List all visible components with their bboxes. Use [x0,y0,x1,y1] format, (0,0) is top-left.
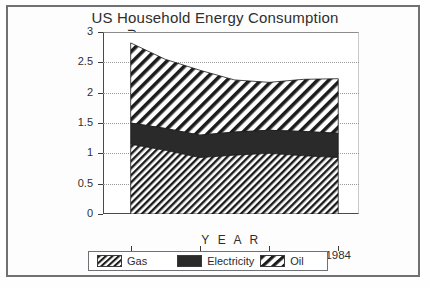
legend-item-electricity: Electricity [177,255,254,267]
chart-legend: Gas Electricity Oil [88,251,328,271]
y-tick-mark [98,184,103,185]
y-tick-mark [98,93,103,94]
legend-item-gas: Gas [97,255,147,267]
legend-label-oil: Oil [290,255,303,267]
stacked-area-series [103,32,359,214]
y-tick-label: 3 [49,26,93,37]
legend-label-gas: Gas [127,255,147,267]
y-tick-mark [98,153,103,154]
y-tick-mark [98,214,103,215]
y-tick-label: 2 [49,87,93,98]
y-tick-mark [98,123,103,124]
x-axis-label: Y E A R [103,233,359,247]
legend-swatch-oil [260,255,285,267]
legend-swatch-gas [97,255,122,267]
plot-area: Quadrillion BTU 00.511.522.53 1978198019… [103,32,359,214]
y-tick-label: 0.5 [49,178,93,189]
y-tick-label: 1 [49,147,93,158]
y-tick-mark [98,62,103,63]
legend-item-oil: Oil [260,255,303,267]
chart-screenshot: US Household Energy Consumption Quadrill… [0,0,430,288]
y-tick-label: 2.5 [49,56,93,67]
y-tick-mark [98,32,103,33]
area-oil [131,43,339,135]
y-tick-label: 1.5 [49,117,93,128]
chart-title: US Household Energy Consumption [0,9,430,26]
legend-label-electricity: Electricity [207,255,254,267]
legend-swatch-electricity [177,255,202,267]
y-tick-label: 0 [49,208,93,219]
